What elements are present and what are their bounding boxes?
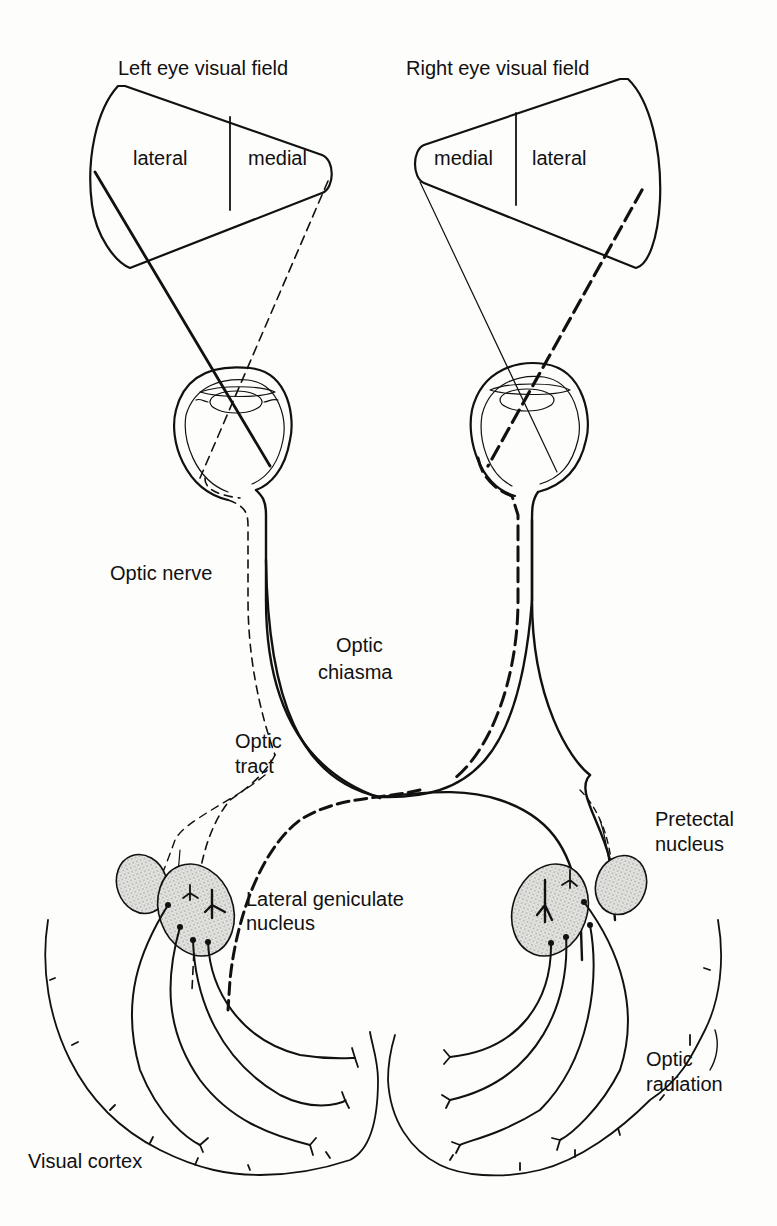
right-lateral-ray bbox=[488, 190, 642, 466]
optic-nerve-label: Optic nerve bbox=[110, 562, 212, 585]
lgn-label-line1: Lateral geniculate bbox=[246, 888, 404, 911]
left-visual-cortex-outline bbox=[45, 920, 378, 1175]
optic-tract-label-line2: tract bbox=[235, 755, 274, 778]
left-medial-ray bbox=[200, 181, 328, 478]
optic-chiasma-label-line2: chiasma bbox=[318, 661, 392, 684]
visual-cortex-label: Visual cortex bbox=[28, 1150, 142, 1173]
right-medial-ray bbox=[420, 182, 557, 472]
lgn-label-line2: nucleus bbox=[246, 912, 315, 935]
left-optic-radiation bbox=[132, 902, 358, 1155]
pretectal-nucleus-label-line1: Pretectal bbox=[655, 808, 734, 831]
right-pretectal-nucleus bbox=[587, 848, 655, 921]
left-lateral-ray bbox=[95, 172, 270, 466]
diagram-artwork bbox=[0, 0, 777, 1226]
pretectal-nucleus-label-line2: nucleus bbox=[655, 833, 724, 856]
right-eye-visual-field-title: Right eye visual field bbox=[406, 57, 589, 80]
optic-radiation-label-line1: Optic bbox=[646, 1048, 693, 1071]
left-visual-field bbox=[90, 86, 331, 268]
right-eyeball bbox=[455, 363, 590, 778]
left-lateral-label: lateral bbox=[133, 147, 187, 170]
right-lateral-label: lateral bbox=[532, 147, 586, 170]
optic-tract-label-line1: Optic bbox=[235, 730, 282, 753]
right-medial-label: medial bbox=[434, 147, 493, 170]
left-medial-label: medial bbox=[248, 147, 307, 170]
optic-chiasma-label-line1: Optic bbox=[336, 634, 383, 657]
left-eye-visual-field-title: Left eye visual field bbox=[118, 57, 288, 80]
optic-radiation-label-line2: radiation bbox=[646, 1073, 723, 1096]
right-visual-field bbox=[415, 79, 660, 268]
visual-pathway-diagram: Left eye visual field Right eye visual f… bbox=[0, 0, 777, 1226]
